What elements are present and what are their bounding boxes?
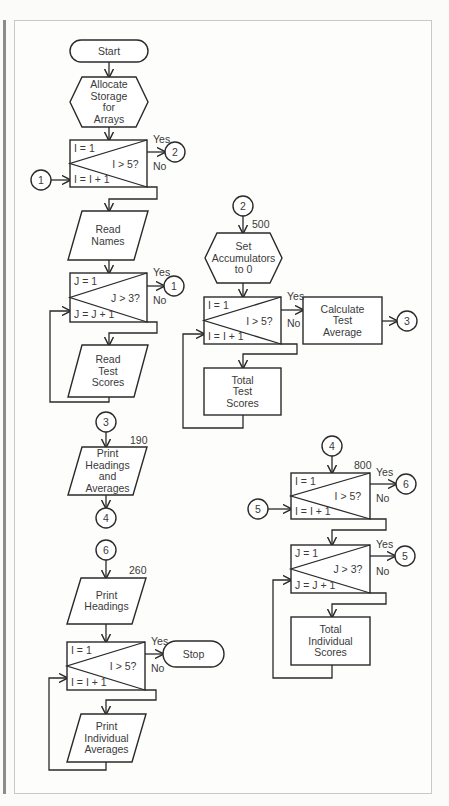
yes-label: Yes — [287, 290, 304, 302]
label-text: Accumulators — [212, 252, 276, 264]
label-text: Individual — [84, 732, 128, 744]
yes-label: Yes — [376, 466, 393, 478]
label-text: Storage — [91, 90, 128, 102]
label-text: Test — [333, 314, 352, 326]
print-headings-io: PrintHeadings — [67, 578, 146, 624]
connector-6: 6 — [396, 474, 416, 494]
label-text: Individual — [308, 635, 352, 647]
allocate-preparation: AllocateStorageforArrays — [70, 77, 148, 127]
connector-5: 5 — [248, 499, 268, 519]
loop-i-2-decision: I = 1I > 5?I = I + 1YesNo — [204, 290, 304, 344]
label-text: Test — [233, 385, 252, 397]
label-text: Averages — [85, 482, 129, 494]
no-label: No — [151, 662, 165, 674]
connector-2: 2 — [233, 196, 253, 216]
label-text: Read — [95, 223, 120, 235]
loop-i-3-decision: I = 1I > 5?I = I + 1YesNo — [291, 466, 393, 519]
flow-line — [243, 344, 297, 368]
flow-line — [109, 322, 157, 345]
yes-label: Yes — [153, 133, 170, 145]
flow-nodes: StartStopAllocateStorageforArraysSetAccu… — [31, 40, 417, 762]
connector-label: 2 — [240, 200, 246, 212]
label-text: Averages — [84, 743, 128, 755]
no-label: No — [153, 294, 167, 306]
connector-label: 5 — [402, 550, 408, 562]
print-headings-averages-io: PrintHeadingsandAverages — [68, 447, 147, 495]
connector-4: 4 — [96, 508, 116, 528]
label-text: Total — [319, 623, 341, 635]
connector-label: 3 — [404, 315, 410, 327]
connector-label: 1 — [171, 280, 177, 292]
print-individual-averages-io: PrintIndividualAverages — [67, 714, 146, 762]
yes-label: Yes — [376, 538, 393, 550]
label-text: Calculate — [321, 303, 365, 315]
yes-label: Yes — [153, 266, 170, 278]
loop-init-text: I = 1 — [208, 299, 229, 311]
calculate-test-average-process: CalculateTestAverage — [303, 297, 382, 344]
label-text: Headings — [84, 600, 128, 612]
loop-init-text: J = 1 — [74, 275, 97, 287]
label-text: Scores — [226, 397, 259, 409]
terminal-label: Start — [98, 45, 120, 57]
label-text: Print — [96, 720, 118, 732]
label-text: Scores — [92, 376, 125, 388]
connector-label: 4 — [103, 512, 109, 524]
loop-init-text: I = 1 — [71, 644, 92, 656]
read-names-io: ReadNames — [68, 211, 148, 260]
loop-increment-text: I = I + 1 — [208, 330, 244, 342]
label-text: Total — [231, 374, 253, 386]
connector-2: 2 — [165, 142, 185, 162]
connector-1: 1 — [31, 170, 51, 190]
connector-3: 3 — [397, 311, 417, 331]
loop-test-text: J > 3? — [111, 292, 140, 304]
connector-3: 3 — [96, 412, 116, 432]
flow-line — [332, 593, 386, 617]
loop-i-4-decision: I = 1I > 5?I = I + 1YesNo — [67, 635, 168, 690]
loop-increment-text: I = I + 1 — [295, 505, 331, 517]
no-label: No — [153, 160, 167, 172]
loop-test-text: I > 5? — [335, 490, 362, 502]
loop-test-text: I > 5? — [110, 660, 137, 672]
loop-j-2-decision: J = 1J > 3?J = J + 1YesNo — [291, 538, 393, 593]
total-individual-scores-process: TotalIndividualScores — [291, 617, 370, 665]
label-text: and — [99, 470, 117, 482]
label-text: Test — [98, 365, 117, 377]
connector-label: 1 — [38, 174, 44, 186]
label-text: Print — [97, 447, 119, 459]
loop-j-1-decision: J = 1J > 3?J = J + 1YesNo — [70, 266, 170, 322]
flow-line — [106, 690, 156, 714]
connector-label: 3 — [103, 416, 109, 428]
stop-terminal: Stop — [163, 641, 224, 667]
label-text: Set — [236, 240, 252, 252]
flow-line — [109, 187, 157, 211]
label-text: Average — [323, 326, 362, 338]
connector-6: 6 — [96, 540, 116, 560]
connector-label: 6 — [403, 478, 409, 490]
label-text: Names — [91, 235, 124, 247]
loop-increment-text: I = I + 1 — [71, 676, 107, 688]
start-terminal: Start — [70, 40, 148, 62]
connector-4: 4 — [322, 436, 342, 456]
loop-i-1-decision: I = 1I > 5?I = I + 1YesNo — [70, 133, 170, 187]
connector-label: 4 — [329, 440, 335, 452]
no-label: No — [376, 565, 390, 577]
terminal-label: Stop — [183, 648, 205, 660]
line-number: 260 — [129, 564, 147, 576]
read-test-scores-io: ReadTestScores — [68, 345, 148, 397]
label-text: Print — [96, 589, 118, 601]
label-text: Arrays — [94, 113, 124, 125]
connector-5: 5 — [395, 546, 415, 566]
connector-label: 5 — [255, 503, 261, 515]
loop-increment-text: I = I + 1 — [74, 173, 110, 185]
line-number: 800 — [354, 459, 372, 471]
loop-init-text: I = 1 — [295, 475, 316, 487]
loop-init-text: I = 1 — [74, 142, 95, 154]
yes-label: Yes — [151, 635, 168, 647]
set-accumulators-preparation: SetAccumulatorsto 0 — [205, 233, 282, 283]
label-text: Headings — [85, 459, 129, 471]
loop-test-text: I > 5? — [246, 315, 273, 327]
line-number: 190 — [130, 434, 148, 446]
label-text: to 0 — [235, 263, 253, 275]
label-text: Read — [95, 353, 120, 365]
connector-label: 2 — [172, 146, 178, 158]
